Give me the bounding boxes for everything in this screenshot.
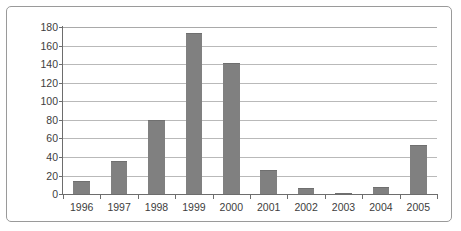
bar-2000 (223, 63, 240, 194)
xtick-label-1997: 1997 (100, 201, 137, 214)
xtick-mark-1 (100, 195, 101, 199)
bar-2003 (335, 193, 352, 194)
ytick-label-100: 100 (10, 96, 58, 106)
ytick-label-120: 120 (10, 78, 58, 88)
y-axis-labels: 180 160 140 120 100 80 60 40 20 0 (8, 0, 58, 231)
bar-2005 (410, 145, 427, 194)
bar-2001 (260, 170, 277, 194)
ytick-label-60: 60 (10, 133, 58, 143)
ytick-label-160: 160 (10, 41, 58, 51)
bar-series (63, 26, 437, 194)
bar-1998 (148, 120, 165, 194)
bar-2004 (373, 187, 390, 194)
xtick-label-2000: 2000 (213, 201, 250, 214)
bar-1997 (111, 161, 128, 194)
xtick-label-1996: 1996 (63, 201, 100, 214)
xtick-label-1999: 1999 (175, 201, 212, 214)
xtick-mark-6 (287, 195, 288, 199)
xtick-label-2003: 2003 (325, 201, 362, 214)
ytick-label-20: 20 (10, 171, 58, 181)
ytick-label-180: 180 (10, 22, 58, 32)
x-axis-labels: 1996 1997 1998 1999 2000 2001 2002 2003 … (63, 201, 437, 217)
bar-2002 (298, 188, 315, 194)
bar-chart-figure: 180 160 140 120 100 80 60 40 20 0 1996 1… (0, 0, 461, 231)
ytick-label-40: 40 (10, 152, 58, 162)
bar-1996 (73, 181, 90, 194)
ytick-label-140: 140 (10, 59, 58, 69)
xtick-mark-9 (400, 195, 401, 199)
xtick-label-2004: 2004 (362, 201, 399, 214)
bar-1999 (186, 33, 203, 194)
xtick-mark-3 (175, 195, 176, 199)
xtick-label-1998: 1998 (138, 201, 175, 214)
xtick-mark-4 (213, 195, 214, 199)
xtick-label-2002: 2002 (287, 201, 324, 214)
xtick-mark-7 (325, 195, 326, 199)
xtick-mark-10 (437, 195, 438, 199)
ytick-label-80: 80 (10, 115, 58, 125)
xtick-label-2005: 2005 (400, 201, 437, 214)
xtick-label-2001: 2001 (250, 201, 287, 214)
xtick-mark-2 (138, 195, 139, 199)
xtick-mark-0 (63, 195, 64, 199)
xtick-mark-8 (362, 195, 363, 199)
ytick-label-0: 0 (10, 189, 58, 199)
xtick-mark-5 (250, 195, 251, 199)
